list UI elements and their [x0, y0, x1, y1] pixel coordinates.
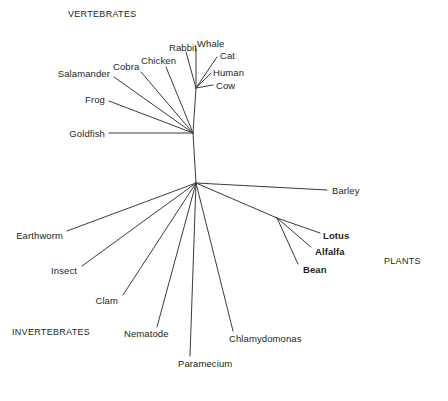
group-label-vertebrates: VERTEBRATES	[68, 9, 136, 20]
branch-vertebrate-to-amniote	[193, 88, 196, 133]
taxon-label-human: Human	[213, 67, 244, 78]
taxon-label-lotus: Lotus	[323, 230, 349, 241]
branch-vertebrate-to-cobra	[141, 72, 193, 133]
branch-center-to-insect	[82, 183, 196, 266]
taxon-label-nematode: Nematode	[124, 328, 169, 339]
taxon-label-goldfish: Goldfish	[69, 128, 105, 139]
taxon-label-earthworm: Earthworm	[16, 230, 63, 241]
group-label-invertebrates: INVERTEBRATES	[12, 327, 90, 338]
taxon-label-barley: Barley	[332, 185, 360, 196]
taxon-label-cow: Cow	[216, 80, 235, 91]
branch-center-to-paramecium	[190, 183, 196, 356]
branch-legume-to-bean	[277, 218, 298, 264]
group-label-plants: PLANTS	[384, 256, 421, 267]
branch-center-to-clam	[123, 183, 196, 295]
branch-center-to-legume	[196, 183, 277, 218]
taxon-label-cat: Cat	[220, 50, 235, 61]
branch-center-to-vertebrate	[193, 133, 196, 183]
taxon-label-rabbit: Rabbit	[169, 42, 197, 53]
taxon-label-whale: Whale	[197, 38, 224, 49]
taxon-label-cobra: Cobra	[113, 61, 139, 72]
branch-center-to-chlamydomonas	[196, 183, 233, 331]
branch-center-to-earthworm	[67, 183, 196, 231]
branch-center-to-barley	[196, 183, 327, 190]
taxon-label-paramecium: Paramecium	[178, 358, 232, 369]
taxon-label-chicken: Chicken	[141, 55, 176, 66]
phylogenetic-tree-figure: WhaleCatRabbitHumanCowChickenCobraSalama…	[0, 0, 448, 401]
taxon-label-chlamydomonas: Chlamydomonas	[229, 333, 302, 344]
branch-amniote-to-rabbit	[186, 52, 196, 88]
taxon-label-clam: Clam	[95, 295, 118, 306]
taxon-label-alfalfa: Alfalfa	[315, 246, 345, 257]
taxon-label-bean: Bean	[303, 264, 327, 275]
branch-vertebrate-to-frog	[109, 101, 193, 133]
taxon-label-insect: Insect	[51, 265, 77, 276]
branch-legume-to-lotus	[277, 218, 320, 233]
taxon-label-salamander: Salamander	[58, 68, 110, 79]
branch-legume-to-alfalfa	[277, 218, 311, 247]
branch-center-to-nematode	[157, 183, 196, 327]
taxon-label-frog: Frog	[85, 94, 105, 105]
